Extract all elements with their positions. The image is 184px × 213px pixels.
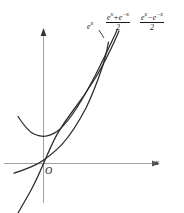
plot-canvas [0, 0, 184, 213]
y-axis-arrow-icon [41, 28, 47, 36]
curves-group [14, 30, 119, 213]
x-axis-arrow-icon [152, 161, 160, 167]
leader-line-exponential [99, 30, 104, 38]
curve-cosh [18, 30, 117, 136]
leader-lines-group [99, 30, 104, 38]
curve-exponential [14, 42, 109, 173]
hyperbolic-functions-figure: ex ex+e−x 2 ex−e−x 2 O x [0, 0, 184, 213]
